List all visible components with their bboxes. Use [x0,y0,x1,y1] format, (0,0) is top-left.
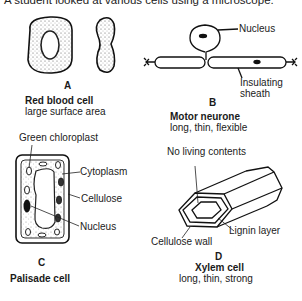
red-blood-cell-side-icon [96,18,114,73]
label-no-living-contents: No living contents [167,146,246,157]
label-cellulose-wall: Cellulose wall [151,236,212,247]
cell-name-d: Xylem cell [195,262,244,273]
cell-letter-d: D [215,251,222,262]
palisade-cell-icon [16,145,80,243]
label-lignin-layer: Lignin layer [229,225,280,236]
label-cellulose: Cellulose [81,193,122,204]
red-blood-cell-face-icon [28,17,72,73]
label-nucleus-b: Nucleus [239,23,275,34]
label-green-chloroplast: Green chloroplast [19,132,98,143]
cell-description-d: long, thin, strong [179,273,253,284]
cell-name-b: Motor neurone [170,111,240,122]
cell-name-a: Red blood cell [25,95,93,106]
cell-description-a: large surface area [25,106,106,117]
label-sheath: sheath [240,88,270,99]
label-cytoplasm: Cytoplasm [80,166,127,177]
cell-letter-b: B [209,97,216,108]
cell-diagrams [0,0,302,301]
cell-letter-c: C [38,257,45,268]
cell-letter-a: A [64,80,71,91]
label-nucleus-c: Nucleus [80,221,116,232]
label-insulating: Insulating [240,77,283,88]
cell-name-c: Palisade cell [10,273,70,284]
cell-description-b: long, thin, flexible [170,122,247,133]
